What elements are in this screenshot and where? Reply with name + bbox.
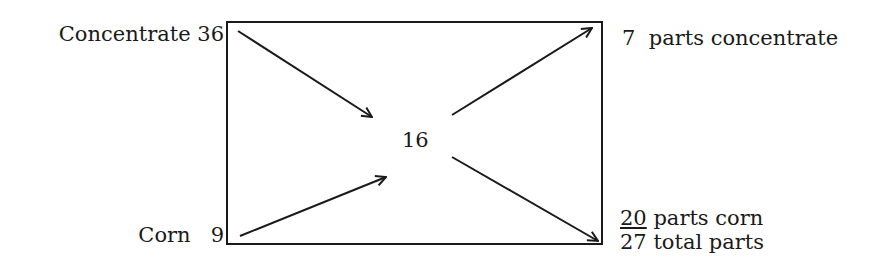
concentrate-parts: 7 xyxy=(622,26,635,50)
corn-name: Corn xyxy=(138,223,190,247)
corn-value: 9 xyxy=(211,223,224,247)
output-corn: 20 parts corn xyxy=(620,208,763,229)
total-parts: 27 xyxy=(620,230,647,254)
output-total: 27 total parts xyxy=(620,232,764,253)
arrow-corn-to-target xyxy=(240,177,386,236)
concentrate-label: Concentrate 36 xyxy=(59,24,224,45)
output-concentrate: 7 parts concentrate xyxy=(622,28,838,49)
arrow-to-parts-corn xyxy=(452,157,598,241)
total-parts-text: total parts xyxy=(653,230,764,254)
corn-parts: 20 xyxy=(620,206,647,230)
concentrate-parts-text: parts concentrate xyxy=(649,26,838,50)
corn-label: Corn 9 xyxy=(138,225,224,246)
target-value: 16 xyxy=(402,130,429,151)
arrow-concentrate-to-target xyxy=(238,31,372,117)
corn-parts-text: parts corn xyxy=(653,206,763,230)
arrow-to-parts-concentrate xyxy=(452,28,592,115)
